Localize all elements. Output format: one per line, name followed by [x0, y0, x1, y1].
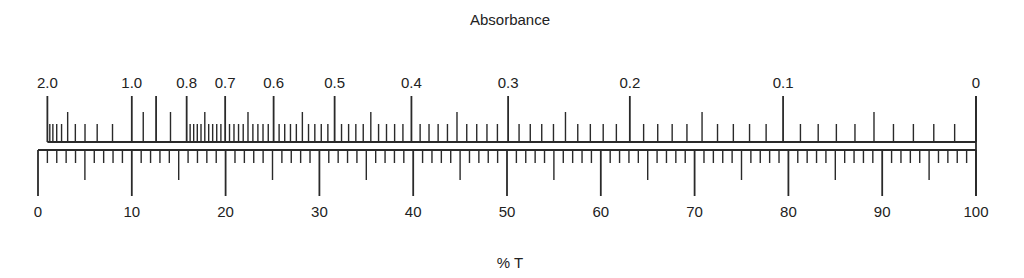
absorbance-label: 1.0: [121, 74, 142, 91]
transmittance-label: 70: [686, 203, 703, 220]
absorbance-label: 0.4: [401, 74, 422, 91]
scale-svg: Absorbance 2.01.00.80.70.60.50.40.30.20.…: [0, 0, 1024, 278]
absorbance-label: 0.6: [263, 74, 284, 91]
absorbance-label: 0.8: [176, 74, 197, 91]
transmittance-label: 40: [405, 203, 422, 220]
absorbance-label: 2.0: [37, 74, 58, 91]
absorbance-label: 0.1: [773, 74, 794, 91]
transmittance-label: 30: [311, 203, 328, 220]
transmittance-label: 60: [592, 203, 609, 220]
absorbance-title: Absorbance: [470, 11, 550, 28]
absorbance-label: 0.3: [498, 74, 519, 91]
absorbance-label: 0.5: [324, 74, 345, 91]
absorbance-label: 0.7: [215, 74, 236, 91]
transmittance-label: 100: [963, 203, 988, 220]
transmittance-label: 90: [874, 203, 891, 220]
absorbance-label: 0.2: [619, 74, 640, 91]
transmittance-label: 50: [499, 203, 516, 220]
absorbance-scale: 2.01.00.80.70.60.50.40.30.20.10: [37, 74, 980, 142]
absorbance-label: 0: [972, 74, 980, 91]
transmittance-label: 10: [123, 203, 140, 220]
transmittance-label: 20: [217, 203, 234, 220]
transmittance-title: % T: [497, 254, 523, 271]
transmittance-label: 80: [780, 203, 797, 220]
transmittance-label: 0: [34, 203, 42, 220]
transmittance-scale: 0102030405060708090100: [34, 96, 989, 220]
